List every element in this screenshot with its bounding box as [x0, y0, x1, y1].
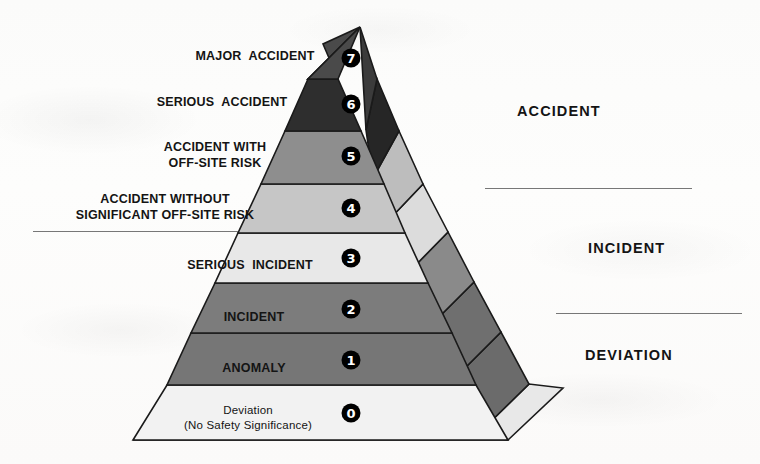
- level-badge-7: 7: [342, 49, 361, 68]
- ines-pyramid-diagram: 7 6 5 4 3 2 1 0 MAJOR ACCIDENT SERIOUS A…: [0, 0, 760, 464]
- category-label-deviation: DEVIATION: [585, 347, 673, 364]
- level-label-2: INCIDENT: [224, 310, 285, 325]
- divider-accident-incident-right: [485, 188, 692, 189]
- level-label-0-line2: (No Safety Significance): [184, 419, 312, 433]
- level-badge-6: 6: [342, 95, 361, 114]
- divider-accident-incident-left: [33, 231, 238, 232]
- level-badge-4: 4: [342, 199, 361, 218]
- pyramid-front-level-1: [167, 333, 476, 385]
- level-label-4-line2: SIGNIFICANT OFF-SITE RISK: [76, 208, 255, 223]
- pyramid-graphic: [0, 0, 760, 464]
- level-label-3: SERIOUS INCIDENT: [187, 258, 313, 273]
- level-label-4-line1: ACCIDENT WITHOUT: [100, 192, 230, 207]
- level-label-0-line1: Deviation: [223, 404, 273, 418]
- level-label-5-line1: ACCIDENT WITH: [164, 140, 267, 155]
- level-badge-5: 5: [342, 147, 361, 166]
- pyramid-front-level-4: [238, 184, 405, 233]
- level-label-1: ANOMALY: [222, 361, 285, 376]
- category-label-incident: INCIDENT: [588, 240, 665, 257]
- level-label-7: MAJOR ACCIDENT: [195, 49, 314, 64]
- pyramid-front-level-5: [261, 131, 384, 184]
- level-label-5-line2: OFF-SITE RISK: [169, 156, 262, 171]
- level-label-6: SERIOUS ACCIDENT: [157, 95, 288, 110]
- divider-incident-deviation: [556, 313, 742, 314]
- level-badge-3: 3: [342, 249, 361, 268]
- category-label-accident: ACCIDENT: [517, 103, 601, 120]
- level-badge-2: 2: [342, 300, 361, 319]
- level-badge-1: 1: [342, 351, 361, 370]
- pyramid-front-level-2: [191, 283, 452, 333]
- level-badge-0: 0: [342, 404, 361, 423]
